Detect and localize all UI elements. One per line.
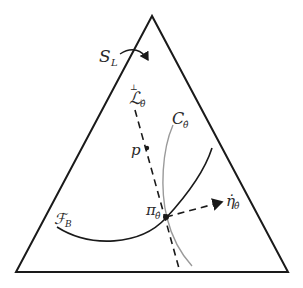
label-eta-sub: θ̂ xyxy=(234,201,240,211)
orthogonal-line xyxy=(135,110,180,272)
label-p: p xyxy=(131,141,141,159)
family-curve xyxy=(57,148,212,241)
label-pi-sub: θ̂ xyxy=(155,211,161,221)
point-pi xyxy=(163,214,169,220)
label-c-sub: θ̂ xyxy=(183,120,189,130)
simplex-diagram: S L ⊥ ℒ θ̂ p C θ̂ ℱ B π θ̂ η̇ θ̂ xyxy=(0,0,303,288)
point-p xyxy=(145,146,149,150)
label-line-sub: θ̂ xyxy=(140,99,146,109)
label-simplex: S xyxy=(99,46,111,66)
simplex-triangle xyxy=(16,16,288,272)
label-family-sub: B xyxy=(64,219,72,229)
label-simplex-sub: L xyxy=(110,57,118,68)
curve-c xyxy=(163,125,192,266)
